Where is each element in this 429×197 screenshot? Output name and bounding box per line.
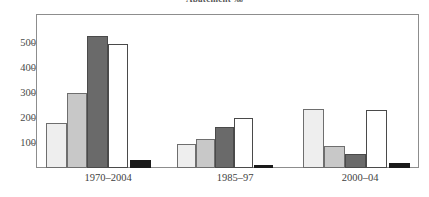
bar-198597-series-5 [254,165,273,168]
x-group-label-2: 1985–97 [170,172,300,183]
bar-19702004-series-4 [108,44,129,168]
bar-19702004-series-5 [130,160,151,168]
bars-layer [0,0,429,197]
x-group-label-3: 2000–04 [295,172,425,183]
bar-chart-figure: Abatement ‰ 500 400 300 200 100 1970–200… [0,0,429,197]
bar-200004-series-5 [389,163,410,168]
bar-200004-series-3 [345,154,366,168]
bar-200004-series-1 [303,109,324,167]
bar-19702004-series-2 [67,93,88,168]
bar-19702004-series-1 [46,123,67,168]
bar-198597-series-2 [196,139,215,168]
bar-198597-series-3 [215,127,234,168]
x-group-label-1: 1970–2004 [38,172,178,183]
bar-200004-series-4 [366,110,387,168]
bar-198597-series-4 [234,118,253,167]
bar-200004-series-2 [324,146,345,168]
bar-198597-series-1 [177,144,196,168]
bar-19702004-series-3 [87,36,108,167]
